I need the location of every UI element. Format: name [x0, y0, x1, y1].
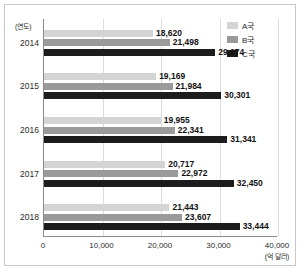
x-axis-unit-label: (억 달러): [265, 251, 290, 261]
bar-2016-B국: [44, 127, 175, 134]
year-tick-2016: 2016: [9, 125, 39, 135]
bar-value-2017-B국: 22,972: [181, 169, 207, 178]
x-tick-30000: 30,000: [206, 241, 230, 250]
bar-value-2015-C국: 30,301: [224, 91, 250, 100]
bar-2016-A국: [44, 117, 161, 124]
year-tick-2017: 2017: [9, 169, 39, 179]
bar-value-2016-C국: 31,341: [230, 135, 256, 144]
y-axis-unit-label: (연도): [15, 21, 32, 31]
bar-value-2018-A국: 21,443: [172, 203, 198, 212]
chart-figure: (연도) A국B국C국 201418,62021,49829,274201519…: [4, 4, 296, 266]
bar-2015-C국: [44, 92, 221, 99]
legend-label-A국: A국: [242, 20, 254, 31]
bar-2014-A국: [44, 30, 153, 37]
bar-value-2016-B국: 22,341: [178, 126, 204, 135]
year-tick-2015: 2015: [9, 81, 39, 91]
bar-value-2014-B국: 21,498: [173, 38, 199, 47]
x-tick-10000: 10,000: [89, 241, 113, 250]
bar-2015-A국: [44, 73, 156, 80]
bar-value-2016-A국: 19,955: [164, 116, 190, 125]
bar-value-2017-C국: 32,450: [237, 179, 263, 188]
legend-item-B국[interactable]: B국: [227, 33, 281, 45]
legend-item-A국[interactable]: A국: [227, 19, 281, 31]
bar-2017-A국: [44, 161, 165, 168]
year-tick-2018: 2018: [9, 212, 39, 222]
bar-value-2015-B국: 21,984: [176, 82, 202, 91]
bar-2018-B국: [44, 214, 182, 221]
legend-label-B국: B국: [242, 34, 254, 45]
bar-2018-C국: [44, 223, 240, 230]
year-tick-2014: 2014: [9, 38, 39, 48]
bar-2017-C국: [44, 180, 234, 187]
x-tick-40000: 40,000: [265, 241, 289, 250]
bar-2017-B국: [44, 170, 178, 177]
bar-2016-C국: [44, 136, 227, 143]
bar-value-2014-C국: 29,274: [218, 48, 244, 57]
bar-2015-B국: [44, 83, 173, 90]
x-tick-20000: 20,000: [148, 241, 172, 250]
bar-2014-C국: [44, 49, 215, 56]
x-tick-0: 0: [41, 241, 45, 250]
bar-2018-A국: [44, 204, 169, 211]
bar-2014-B국: [44, 39, 170, 46]
legend-swatch-icon-A국: [227, 22, 238, 29]
bar-value-2018-B국: 23,607: [185, 213, 211, 222]
legend-swatch-icon-B국: [227, 36, 238, 43]
bar-value-2018-C국: 33,444: [243, 222, 269, 231]
